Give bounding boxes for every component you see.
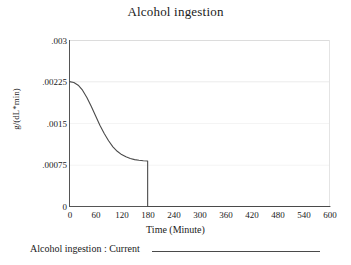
chart-container: Alcohol ingestion g/(dL*min) .003 .00225… — [0, 0, 351, 265]
x-tick-label: 600 — [315, 210, 345, 220]
legend-label-current: Alcohol ingestion : Current — [30, 243, 140, 254]
x-axis-tick-labels: 0 60 120 180 240 300 360 420 480 540 600 — [0, 210, 351, 224]
legend: Alcohol ingestion : Current — [0, 243, 351, 261]
x-axis-title: Time (Minute) — [0, 224, 351, 235]
series-line-current — [70, 82, 331, 207]
legend-line-swatch — [152, 251, 320, 252]
